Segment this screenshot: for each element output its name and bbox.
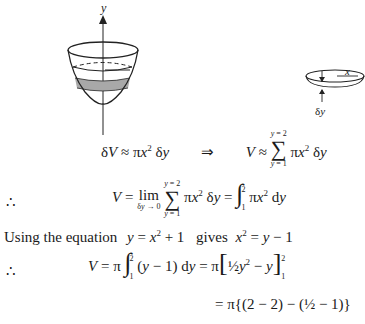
equation-line-1: δV ≈ πx2 δy ⇒ V ≈ y = 2 ∑ y = 1 πx2 δy: [101, 140, 327, 168]
equation-line-3: Using the equation y = x2 + 1 gives x2 =…: [4, 228, 293, 246]
radius-label: x: [344, 65, 350, 77]
equation-line-5: = π{(2 − 2) − (½ − 1)}: [215, 296, 351, 313]
disc-figure: x δy: [300, 62, 365, 122]
equation-line-4: V = π ∫21 (y − 1) dy = π[½y2 − y]21: [88, 250, 285, 281]
svg-text:δy: δy: [315, 105, 325, 117]
therefore-symbol-2: ∴: [6, 262, 16, 280]
svg-text:y: y: [100, 1, 107, 15]
paraboloid-figure: y: [30, 0, 170, 135]
equation-line-2: V = lim δy → 0 y = 2 ∑ y = 1 πx2 δy = ∫2…: [112, 180, 286, 218]
therefore-symbol-1: ∴: [6, 193, 16, 211]
